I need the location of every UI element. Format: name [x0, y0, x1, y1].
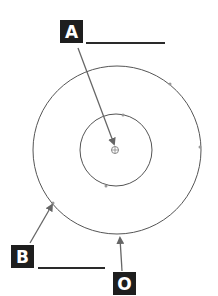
label-a: A: [60, 20, 83, 43]
arrow-a: [78, 48, 114, 144]
arrow-b: [30, 205, 52, 243]
label-b: B: [11, 245, 34, 268]
answer-line-a[interactable]: [86, 42, 165, 44]
label-o: O: [113, 272, 136, 295]
circle-point-markers: [52, 83, 202, 205]
center-point-icon: [112, 147, 119, 154]
arrow-o: [120, 238, 122, 271]
answer-line-b[interactable]: [38, 267, 105, 269]
